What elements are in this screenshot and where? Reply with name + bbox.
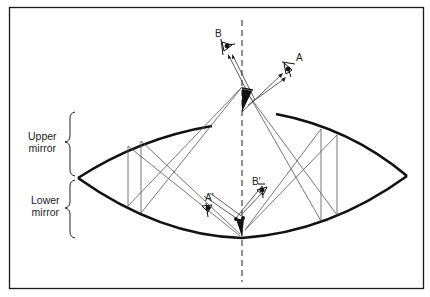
upper-mirror-label: Upper mirror xyxy=(28,130,57,154)
brace-lower-mirror xyxy=(65,180,75,238)
eye-icon-a-prime xyxy=(202,203,212,217)
eye-icon-b xyxy=(221,39,235,55)
upper-mirror-left xyxy=(78,126,212,178)
figure-frame xyxy=(10,8,424,289)
lower-mirror-label-line1: Lower xyxy=(31,194,60,206)
viewer-a-prime-label: A′ xyxy=(205,192,214,203)
lower-mirror-label-line2: mirror xyxy=(31,206,60,218)
upper-mirror-label-line1: Upper xyxy=(28,130,57,142)
rays-left xyxy=(128,87,242,236)
mirror-diagram xyxy=(0,0,430,297)
rays-upper-image xyxy=(229,56,284,112)
viewer-a-label: A xyxy=(296,52,303,63)
lower-mirror-label: Lower mirror xyxy=(31,194,60,218)
arrowhead-a-2 xyxy=(281,77,286,82)
upper-image-object xyxy=(242,89,252,112)
viewer-b-label: B xyxy=(215,28,222,39)
lower-object xyxy=(236,219,244,237)
viewer-b-prime-label: B′ xyxy=(252,176,261,187)
brace-upper-mirror xyxy=(65,112,75,176)
upper-mirror-right xyxy=(276,114,407,176)
eye-icon-a xyxy=(282,62,295,77)
upper-mirror-label-line2: mirror xyxy=(28,142,57,154)
